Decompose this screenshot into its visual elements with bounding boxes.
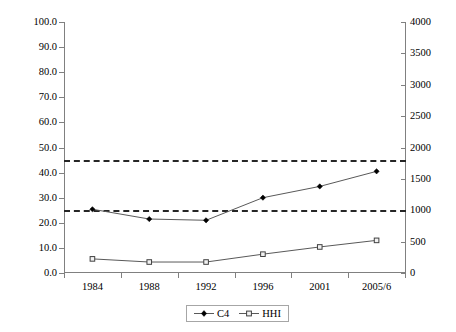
legend-item-c4: C4 <box>194 308 229 319</box>
series-line-c4 <box>92 171 376 220</box>
data-point-hhi <box>317 245 322 250</box>
data-point-hhi <box>374 238 379 243</box>
open-square-icon <box>239 309 259 318</box>
data-point-c4 <box>374 169 379 174</box>
chart-legend: C4 HHI <box>186 305 289 322</box>
data-point-c4 <box>317 184 322 189</box>
legend-item-hhi: HHI <box>239 308 281 319</box>
data-point-c4 <box>147 216 152 221</box>
series-overlay <box>0 0 456 332</box>
legend-label-c4: C4 <box>217 308 229 319</box>
chart-container: 0.010.020.030.040.050.060.070.080.090.01… <box>0 0 456 332</box>
data-point-c4 <box>203 218 208 223</box>
data-point-hhi <box>147 260 152 265</box>
data-point-hhi <box>90 257 95 262</box>
data-point-hhi <box>261 252 266 257</box>
legend-label-hhi: HHI <box>262 308 281 319</box>
series-line-hhi <box>92 240 376 262</box>
data-point-c4 <box>90 207 95 212</box>
filled-diamond-icon <box>194 309 214 318</box>
data-point-hhi <box>204 260 209 265</box>
data-point-c4 <box>260 195 265 200</box>
